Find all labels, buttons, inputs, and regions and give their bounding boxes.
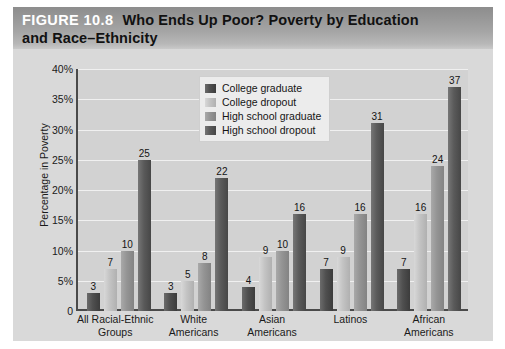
- gridline: [78, 251, 468, 252]
- figure-title-banner: FIGURE 10.8Who Ends Up Poor? Poverty by …: [13, 7, 493, 49]
- gridline: [78, 69, 468, 70]
- legend-item[interactable]: College graduate: [205, 81, 321, 95]
- x-axis-category-label: Latinos: [311, 313, 389, 339]
- x-axis-label-line: Latinos: [311, 313, 389, 326]
- figure-container: FIGURE 10.8Who Ends Up Poor? Poverty by …: [0, 0, 505, 349]
- x-axis-category-label: AsianAmericans: [233, 313, 311, 339]
- x-axis-label-line: Americans: [154, 326, 232, 339]
- gridline: [78, 220, 468, 221]
- y-axis-title: Percentage in Poverty: [38, 100, 50, 250]
- legend-swatch-icon: [205, 98, 216, 107]
- y-axis-tick-label: 5%: [29, 275, 73, 287]
- legend-label: High school dropout: [222, 124, 315, 136]
- y-axis: Percentage in Poverty 05%10%15%20%25%30%…: [23, 69, 73, 311]
- x-axis-labels: All Racial-EthnicGroupsWhiteAmericansAsi…: [76, 313, 468, 339]
- legend-item[interactable]: High school dropout: [205, 123, 321, 137]
- figure-title-text: Who Ends Up Poor? Poverty by Education: [122, 12, 418, 28]
- y-axis-tick-label: 35%: [29, 93, 73, 105]
- x-axis-label-line: Asian: [233, 313, 311, 326]
- gridline: [78, 190, 468, 191]
- x-axis-category-label: AfricanAmericans: [390, 313, 468, 339]
- y-axis-tick-label: 10%: [29, 245, 73, 257]
- x-axis-label-line: African: [390, 313, 468, 326]
- chart-legend: College graduateCollege dropoutHigh scho…: [199, 76, 330, 142]
- legend-swatch-icon: [205, 126, 216, 135]
- y-axis-tick-label: 0: [29, 305, 73, 317]
- figure-title-line-2: and Race–Ethnicity: [22, 29, 485, 47]
- gridline: [78, 160, 468, 161]
- x-axis-category-label: WhiteAmericans: [154, 313, 232, 339]
- chart-area: Percentage in Poverty 05%10%15%20%25%30%…: [13, 49, 493, 341]
- legend-label: College graduate: [222, 82, 302, 94]
- legend-item[interactable]: High school graduate: [205, 109, 321, 123]
- x-axis-category-label: All Racial-EthnicGroups: [76, 313, 154, 339]
- y-axis-tick-label: 20%: [29, 184, 73, 196]
- y-axis-tick-label: 15%: [29, 214, 73, 226]
- legend-item[interactable]: College dropout: [205, 95, 321, 109]
- y-axis-tick-label: 30%: [29, 124, 73, 136]
- x-axis-label-line: White: [154, 313, 232, 326]
- y-axis-tick-label: 40%: [29, 63, 73, 75]
- x-axis-label-line: Americans: [390, 326, 468, 339]
- legend-swatch-icon: [205, 84, 216, 93]
- x-axis-label-line: Americans: [233, 326, 311, 339]
- legend-label: College dropout: [222, 96, 296, 108]
- y-axis-tick-label: 25%: [29, 154, 73, 166]
- legend-swatch-icon: [205, 112, 216, 121]
- x-axis-label-line: Groups: [76, 326, 154, 339]
- x-axis-label-line: All Racial-Ethnic: [76, 313, 154, 326]
- figure-title-line-1: FIGURE 10.8Who Ends Up Poor? Poverty by …: [22, 11, 485, 29]
- figure-number: FIGURE 10.8: [22, 12, 113, 28]
- gridline: [78, 281, 468, 282]
- legend-label: High school graduate: [222, 110, 321, 122]
